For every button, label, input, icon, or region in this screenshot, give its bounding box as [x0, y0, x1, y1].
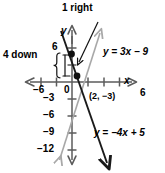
- annotation-four-down: 4 down: [3, 50, 37, 60]
- annotation-one-right: 1 right: [62, 3, 93, 13]
- x-axis-letter: x: [124, 76, 130, 86]
- y-tick-label--6: −6: [43, 110, 54, 120]
- graph-figure: 1 right 4 down y = 3x − 9 y = −4x + 5 (2…: [0, 0, 165, 173]
- y-axis: [68, 30, 77, 160]
- y-tick-label--12: −12: [37, 144, 54, 154]
- point-1-1: [74, 73, 81, 80]
- line-label-minus-4x-plus-5: y = −4x + 5: [94, 128, 145, 138]
- line-label-3x-minus-9: y = 3x − 9: [103, 47, 148, 57]
- y-tick-label--9: −9: [43, 127, 54, 137]
- x-tick-label-0: 0: [64, 85, 70, 95]
- point-0-5: [68, 51, 75, 58]
- x-axis: [30, 78, 132, 87]
- y-tick-label--3: −3: [43, 93, 54, 103]
- x-tick-label-6: 6: [140, 88, 146, 98]
- one-right-arrow: [79, 22, 98, 62]
- y-axis-letter: y: [61, 26, 67, 36]
- y-tick-label-6: 6: [52, 42, 58, 52]
- intersection-point-label: (2, −3): [89, 92, 115, 101]
